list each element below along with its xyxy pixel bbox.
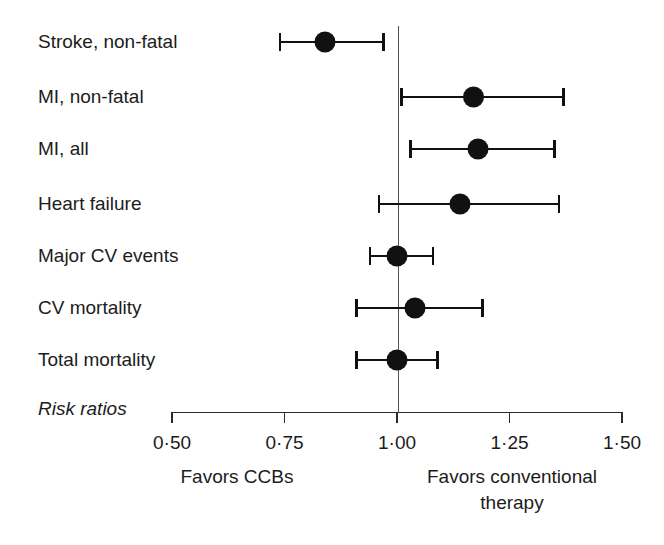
axis-tick-label: 0·50: [153, 432, 191, 453]
forest-plot-figure: Stroke, non-fatal MI, non-fatal MI, all …: [0, 0, 664, 545]
row-label-4: Major CV events: [38, 245, 178, 266]
favors-conventional-caption-line2: therapy: [480, 492, 544, 513]
axis-tick-label: 1·50: [603, 432, 641, 453]
row-label-2: MI, all: [38, 138, 89, 159]
axis-tick-label: 0·75: [265, 432, 303, 453]
axis-tick-label: 1·00: [378, 432, 416, 453]
point-estimate-marker: [405, 298, 426, 319]
row-label-0: Stroke, non-fatal: [38, 31, 177, 52]
risk-ratios-note: Risk ratios: [38, 398, 127, 419]
point-estimate-marker: [387, 350, 408, 371]
axis-tick-label-group: 0·500·751·001·251·50: [153, 432, 641, 453]
ci-series-group: [280, 32, 564, 371]
forest-plot-svg: Stroke, non-fatal MI, non-fatal MI, all …: [0, 0, 664, 545]
point-estimate-marker: [450, 194, 471, 215]
favors-conventional-caption-line1: Favors conventional: [427, 466, 597, 487]
axis-captions: Favors CCBs Favors conventional therapy: [181, 466, 598, 513]
axis-tick-label: 1·25: [490, 432, 528, 453]
favors-ccbs-caption: Favors CCBs: [181, 466, 294, 487]
point-estimate-marker: [387, 246, 408, 267]
point-estimate-marker: [468, 139, 489, 160]
point-estimate-marker: [463, 87, 484, 108]
row-label-1: MI, non-fatal: [38, 86, 144, 107]
axis-tick-group: [172, 412, 622, 423]
row-label-6: Total mortality: [38, 349, 156, 370]
row-label-3: Heart failure: [38, 193, 142, 214]
row-label-5: CV mortality: [38, 297, 142, 318]
row-labels: Stroke, non-fatal MI, non-fatal MI, all …: [38, 31, 178, 419]
x-axis: [172, 412, 622, 423]
point-estimate-marker: [315, 32, 336, 53]
